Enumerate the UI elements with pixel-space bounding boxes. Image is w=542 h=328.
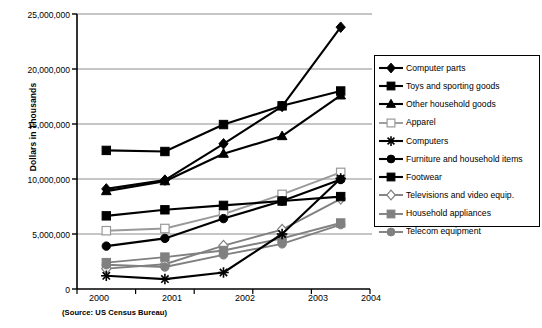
legend-item[interactable]: Computers [378, 132, 539, 150]
data-point-marker [161, 253, 169, 261]
data-point-marker [387, 173, 395, 181]
legend-item-label: Other household goods [404, 100, 496, 109]
x-tick-label: 2003 [298, 294, 338, 303]
data-point-marker [102, 146, 110, 154]
data-point-marker [161, 147, 169, 155]
legend-item[interactable]: Apparel [378, 114, 539, 132]
data-point-marker [278, 240, 286, 248]
data-point-marker [219, 139, 228, 150]
legend-item[interactable]: Footwear [378, 168, 539, 186]
legend-marker-icon [378, 207, 404, 221]
legend-item-label: Telecom equipment [404, 227, 481, 236]
legend-item-label: Televisions and video equip. [404, 191, 514, 200]
data-point-marker [102, 242, 110, 250]
data-point-marker [161, 234, 169, 242]
source-note: (Source: US Census Bureau) [62, 308, 167, 317]
data-point-marker [387, 191, 396, 201]
legend-item-label: Computers [404, 137, 448, 146]
legend-marker-icon [378, 225, 404, 239]
chart-root: Dollars in Thousands 25,000,000 20,000,0… [0, 0, 542, 328]
data-point-marker [387, 119, 395, 127]
data-point-marker [161, 263, 169, 271]
data-point-marker [219, 214, 227, 222]
legend-item-label: Footwear [404, 173, 442, 182]
series-layer [101, 22, 346, 284]
data-point-marker [161, 206, 169, 214]
legend-marker-icon [378, 134, 404, 148]
legend-item[interactable]: Furniture and household items [378, 150, 539, 168]
legend-marker-icon [378, 116, 404, 130]
data-point-marker [387, 63, 396, 73]
data-point-marker [337, 192, 345, 200]
legend-marker-icon [378, 170, 404, 184]
legend-item[interactable]: Telecom equipment [378, 223, 539, 241]
chart-legend: Computer partsToys and sporting goodsOth… [374, 55, 540, 227]
data-point-marker [160, 274, 171, 285]
legend-item-label: Computer parts [404, 64, 466, 73]
data-point-marker [387, 155, 395, 163]
x-tick-label: 2000 [79, 294, 119, 303]
data-point-marker [219, 120, 227, 128]
legend-item-label: Toys and sporting goods [404, 82, 500, 91]
legend-item-label: Furniture and household items [404, 155, 523, 164]
data-point-marker [102, 212, 110, 220]
legend-item[interactable]: Televisions and video equip. [378, 186, 539, 204]
x-tick-label: 2001 [152, 294, 192, 303]
legend-marker-icon [378, 97, 404, 111]
data-point-marker [219, 201, 227, 209]
legend-marker-icon [378, 79, 404, 93]
data-point-marker [161, 224, 169, 232]
data-point-marker [387, 228, 395, 236]
x-tick-label: 2002 [225, 294, 265, 303]
legend-item[interactable]: Other household goods [378, 95, 539, 113]
data-point-marker [102, 227, 110, 235]
data-point-marker [102, 261, 110, 269]
legend-marker-icon [378, 188, 404, 202]
data-point-marker [278, 197, 286, 205]
data-point-marker [219, 251, 227, 259]
legend-item-label: Household appliances [404, 209, 491, 218]
data-point-marker [387, 82, 395, 90]
legend-item-label: Apparel [404, 118, 436, 127]
chart-series [102, 22, 346, 194]
legend-marker-icon [378, 61, 404, 75]
data-point-marker [387, 210, 395, 218]
data-point-marker [218, 267, 229, 278]
data-point-marker [277, 229, 288, 240]
x-tick-label: 2004 [351, 294, 391, 303]
data-point-marker [278, 102, 286, 110]
data-point-marker [386, 136, 396, 146]
data-point-marker [337, 175, 345, 183]
legend-item[interactable]: Household appliances [378, 205, 539, 223]
series-line [106, 27, 340, 189]
data-point-marker [277, 131, 287, 140]
data-point-marker [337, 220, 345, 228]
legend-item[interactable]: Toys and sporting goods [378, 77, 539, 95]
data-point-marker [101, 271, 112, 282]
legend-item[interactable]: Computer parts [378, 59, 539, 77]
legend-marker-icon [378, 152, 404, 166]
